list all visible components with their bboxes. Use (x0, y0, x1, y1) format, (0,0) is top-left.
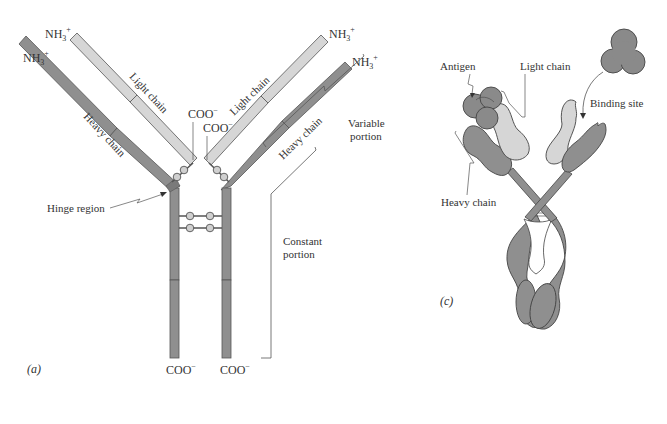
variable-portion-label-line2: portion (350, 130, 382, 142)
sulfur-atom (173, 173, 181, 181)
panel-a-label: (a) (27, 362, 41, 376)
sulfur-atom (206, 212, 214, 220)
inter-heavy-disulfide-bonds (179, 212, 222, 232)
coo-terminus-left-light: COO− (188, 106, 218, 121)
sulfur-atom (213, 166, 221, 174)
right-heavy-chain-stem-lower (222, 280, 231, 358)
panel-c-antibody-3d-sketch: Antigen Light chain Binding site Heavy c… (440, 29, 645, 331)
sulfur-atom (180, 166, 188, 174)
nh3-terminus-right-light: NH3+ (329, 25, 355, 43)
free-antigen (601, 29, 645, 74)
constant-portion-label-line2: portion (283, 248, 315, 260)
hinge-region-label: Hinge region (47, 202, 105, 214)
light-chain-label: Light chain (520, 60, 571, 72)
bound-antigen (463, 87, 502, 129)
binding-site-label: Binding site (590, 97, 644, 109)
variable-portion-label: Variable (348, 117, 385, 129)
sulfur-atom (186, 224, 194, 232)
panel-a-immunoglobulin-schematic: NH3+ NH3+ NH3+ NH3+ COO− COO− COO− COO− … (19, 25, 385, 377)
heavy-chain-label: Heavy chain (441, 196, 497, 208)
coo-terminus-left-heavy: COO− (166, 362, 196, 377)
fc-region (507, 213, 566, 331)
antibody-structure-diagram: NH3+ NH3+ NH3+ NH3+ COO− COO− COO− COO− … (0, 0, 667, 424)
antigen-pointer (468, 74, 473, 94)
nh3-terminus-left-light: NH3+ (45, 25, 71, 43)
left-heavy-chain-stem-upper (170, 188, 179, 280)
sulfur-atom (206, 224, 214, 232)
sulfur-atom (186, 212, 194, 220)
nh3-terminus-right-heavy: NH3+ (352, 53, 378, 71)
hinge-arrowhead-icon (160, 192, 167, 197)
panel-c-label: (c) (440, 294, 453, 308)
coo-terminus-right-heavy: COO− (220, 362, 250, 377)
binding-site-arrowhead-icon (580, 113, 586, 119)
sulfur-atom (220, 173, 228, 181)
left-heavy-chain (19, 36, 180, 358)
right-heavy-chain-stem-upper (222, 188, 231, 280)
left-light-heavy-disulfide (172, 163, 193, 182)
hinge-region-pointer (110, 194, 163, 208)
left-heavy-chain-stem-lower (170, 280, 179, 358)
constant-portion-label: Constant (283, 235, 322, 247)
right-light-heavy-disulfide (209, 163, 229, 182)
heavy-chain-stalks (507, 168, 572, 222)
antigen-label: Antigen (440, 60, 476, 72)
